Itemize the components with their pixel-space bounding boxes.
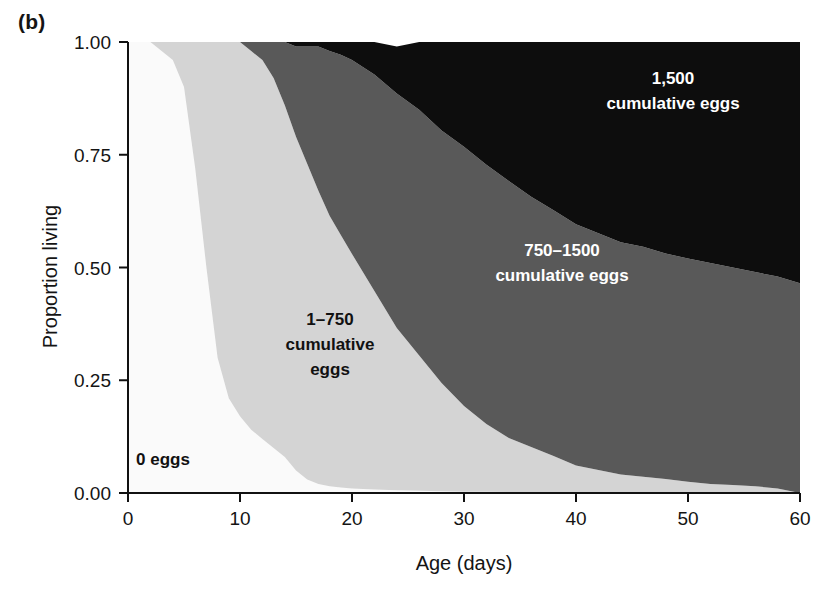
x-tick-label: 10 <box>229 508 250 529</box>
x-tick-label: 60 <box>789 508 810 529</box>
band-label-mid-line1: 750–1500 <box>524 241 600 260</box>
band-label-high-line1: 1,500 <box>652 69 695 88</box>
y-tick-label: 0.75 <box>74 145 111 166</box>
band-label-mid-line2: cumulative eggs <box>495 266 628 285</box>
x-tick-label: 50 <box>677 508 698 529</box>
band-label-low-line3: eggs <box>310 360 350 379</box>
band-label-low-line2: cumulative <box>286 335 375 354</box>
band-label-low-line1: 1–750 <box>306 310 353 329</box>
figure-panel-b: (b) Proportion living Age (days) 0102030… <box>0 0 829 597</box>
stacked-area-chart: 01020304050600.000.250.500.751.00 0 eggs… <box>0 0 829 597</box>
y-tick-label: 1.00 <box>74 32 111 53</box>
x-tick-label: 0 <box>123 508 134 529</box>
band-label-high-line2: cumulative eggs <box>606 94 739 113</box>
y-tick-label: 0.50 <box>74 258 111 279</box>
x-tick-label: 40 <box>565 508 586 529</box>
x-tick-label: 30 <box>453 508 474 529</box>
y-tick-label: 0.25 <box>74 370 111 391</box>
band-label-zero-eggs: 0 eggs <box>136 450 190 469</box>
y-tick-label: 0.00 <box>74 483 111 504</box>
x-tick-label: 20 <box>341 508 362 529</box>
